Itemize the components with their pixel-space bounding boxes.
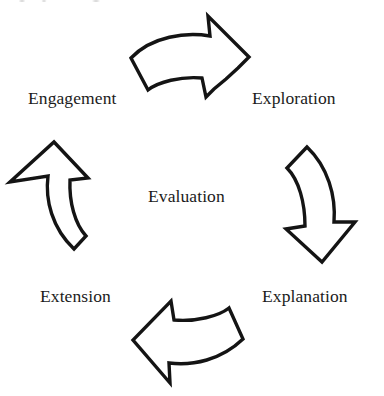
curved-arrow-down-icon: [286, 147, 355, 262]
curved-arrow-up-icon: [10, 142, 88, 249]
label-explanation: Explanation: [262, 288, 348, 306]
label-engagement: Engagement: [28, 90, 116, 108]
label-exploration: Exploration: [252, 90, 336, 108]
curved-arrow-right-icon: [131, 16, 249, 97]
diagram-canvas: Engagement Exploration Evaluation Extens…: [0, 0, 384, 396]
label-evaluation: Evaluation: [148, 188, 225, 206]
label-extension: Extension: [40, 288, 111, 306]
curved-arrow-left-icon: [133, 301, 243, 383]
